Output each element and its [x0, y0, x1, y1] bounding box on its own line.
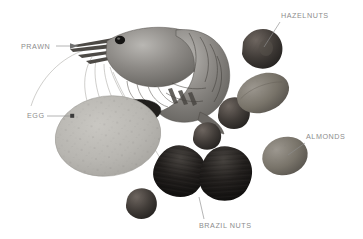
hazelnut-small [193, 122, 221, 150]
hazelnut-bottom [126, 188, 157, 219]
brazil-nut-right [194, 141, 257, 206]
callout-label-almonds: ALMONDS [306, 132, 345, 141]
callout-label-hazelnuts: HAZELNUTS [281, 11, 329, 20]
callout-label-prawn: PRAWN [21, 42, 50, 51]
brazil-nut-right-ridges [194, 141, 257, 206]
hazelnut-small-texture [193, 122, 221, 150]
hazelnut-bottom-texture [126, 188, 157, 219]
almond-right-texture [258, 131, 313, 180]
leader-square-egg [70, 114, 74, 118]
callout-label-brazilnuts: BRAZIL NUTS [199, 221, 252, 230]
prawn-eye [115, 36, 125, 44]
leader-arrow-prawn [70, 43, 78, 49]
hazelnut-top-scar [259, 40, 273, 56]
leader-line-brazilnuts [199, 197, 204, 219]
specimen-illustration [0, 0, 363, 239]
hazelnut-top [242, 29, 282, 69]
prawn-eye-highlight [117, 37, 120, 39]
almond-right [258, 131, 313, 180]
allergen-specimen-figure: PRAWN EGG HAZELNUTS ALMONDS BRAZIL NUTS [0, 0, 363, 239]
callout-label-egg: EGG [27, 111, 45, 120]
